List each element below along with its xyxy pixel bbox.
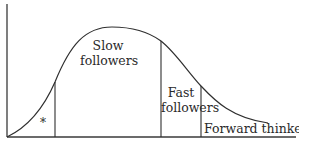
fast-followers-line1: Fast <box>161 85 201 100</box>
slow-followers-label: Slow followers <box>80 38 136 68</box>
forward-thinkers-label: Forward thinkers <box>204 122 299 136</box>
fast-followers-line2: followers <box>161 100 201 115</box>
early-adopters-label: * <box>40 117 46 129</box>
slow-followers-line2: followers <box>80 53 136 68</box>
fast-followers-label: Fast followers <box>161 85 201 115</box>
slow-followers-line1: Slow <box>80 38 136 53</box>
